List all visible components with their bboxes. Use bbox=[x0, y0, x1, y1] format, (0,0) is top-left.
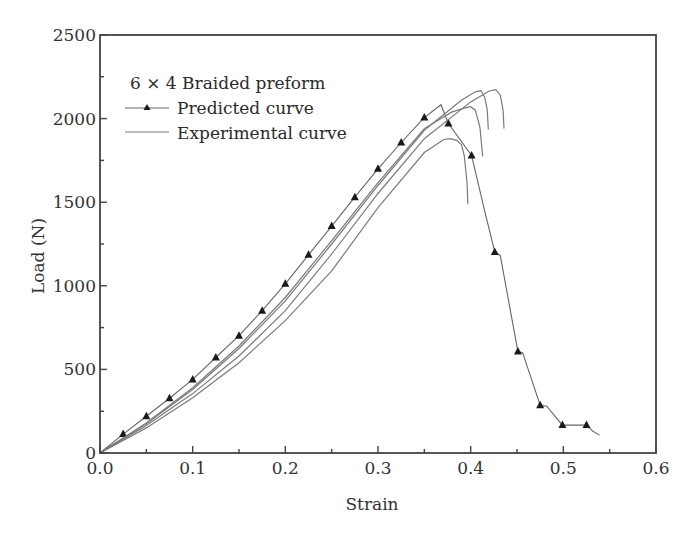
y-axis-title: Load (N) bbox=[28, 218, 48, 294]
legend-experimental-label: Experimental curve bbox=[177, 123, 347, 143]
x-tick-label: 0.1 bbox=[179, 458, 206, 478]
legend: 6 × 4 Braided preform Predicted curve Ex… bbox=[125, 73, 347, 143]
triangle-marker-icon bbox=[583, 421, 591, 429]
y-tick-label: 1000 bbox=[53, 276, 96, 296]
load-strain-chart: 0.00.10.20.30.40.50.6 050010001500200025… bbox=[0, 0, 690, 534]
x-tick-label: 0.6 bbox=[642, 458, 669, 478]
experimental-curve bbox=[100, 91, 488, 453]
x-tick-label: 0.2 bbox=[272, 458, 299, 478]
triangle-marker-icon bbox=[420, 113, 428, 121]
triangle-marker-icon bbox=[536, 401, 544, 409]
x-axis-tick-labels: 0.00.10.20.30.40.50.6 bbox=[86, 458, 669, 478]
plot-series bbox=[100, 90, 600, 453]
experimental-curve bbox=[100, 90, 504, 453]
y-tick-label: 500 bbox=[64, 359, 96, 379]
y-tick-label: 1500 bbox=[53, 192, 96, 212]
y-axis-tick-labels: 05001000150020002500 bbox=[53, 25, 96, 463]
y-tick-label: 2000 bbox=[53, 109, 96, 129]
triangle-marker-icon bbox=[166, 394, 174, 402]
y-tick-label: 0 bbox=[85, 443, 96, 463]
y-tick-label: 2500 bbox=[53, 25, 96, 45]
legend-title: 6 × 4 Braided preform bbox=[130, 73, 325, 93]
triangle-marker-icon bbox=[142, 412, 150, 420]
experimental-curve bbox=[100, 139, 468, 453]
legend-predicted-label: Predicted curve bbox=[177, 98, 314, 118]
x-tick-label: 0.5 bbox=[550, 458, 577, 478]
experimental-curve bbox=[100, 107, 483, 453]
triangle-marker-icon bbox=[514, 347, 522, 355]
x-tick-label: 0.3 bbox=[364, 458, 391, 478]
x-axis-title: Strain bbox=[345, 494, 398, 514]
x-tick-label: 0.4 bbox=[457, 458, 484, 478]
legend-triangle-marker-icon bbox=[144, 104, 151, 110]
triangle-marker-icon bbox=[491, 248, 499, 256]
